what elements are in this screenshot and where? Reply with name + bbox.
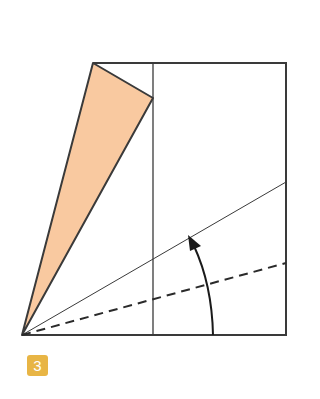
arrowhead-icon — [188, 235, 201, 251]
fold-arrow-icon — [194, 246, 213, 335]
colored-flap — [22, 63, 153, 335]
step-badge: 3 — [27, 355, 48, 376]
dashed-fold-line — [22, 263, 286, 335]
origami-diagram — [0, 0, 320, 399]
